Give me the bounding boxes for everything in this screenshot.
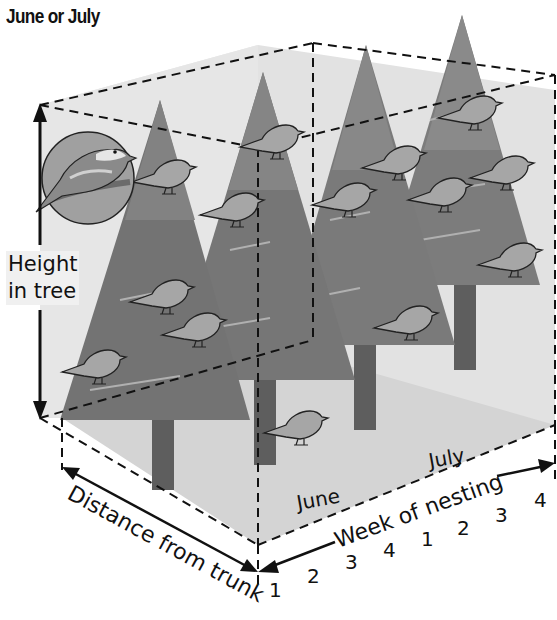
week-tick-july-2: 2 — [457, 516, 470, 540]
week-tick-june-3: 3 — [345, 550, 358, 574]
week-tick-july-3: 3 — [495, 503, 508, 527]
week-tick-june-2: 2 — [307, 564, 320, 588]
height-axis-label-line2: in tree — [8, 278, 77, 305]
week-tick-july-1: 1 — [421, 527, 434, 551]
week-tick-june-4: 4 — [383, 538, 396, 562]
nesting-diagram: Distance from trunk Week of nesting June… — [0, 0, 557, 620]
month-label-july: July — [425, 443, 467, 473]
week-tick-july-4: 4 — [534, 488, 547, 512]
week-tick-june-1: 1 — [269, 578, 282, 602]
height-axis-label-line1: Height — [8, 251, 77, 278]
height-axis-label: Height in tree — [6, 251, 79, 305]
